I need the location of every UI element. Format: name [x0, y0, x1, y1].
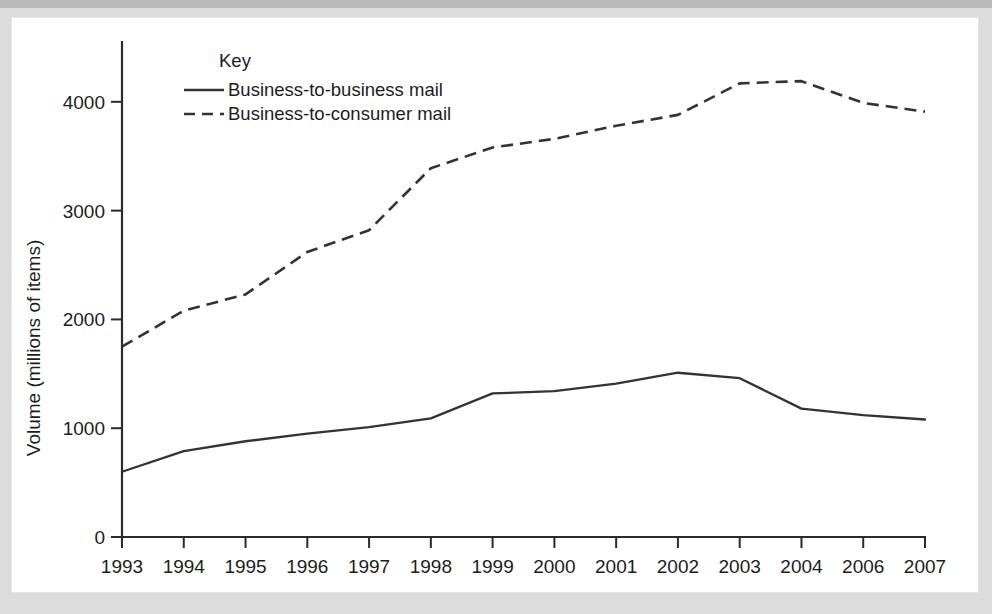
x-axis-tick-label: 2006: [842, 556, 884, 577]
y-axis-tick-label: 1000: [63, 418, 105, 439]
y-axis-tick-label: 0: [94, 527, 105, 548]
x-axis-tick-label: 1997: [348, 556, 390, 577]
x-axis-tick-label: 1998: [410, 556, 452, 577]
x-axis-tick-label: 1994: [163, 556, 206, 577]
y-axis-title: Volume (millions of items): [23, 240, 44, 456]
x-axis-tick-label: 2001: [595, 556, 637, 577]
legend-label-business-to-consumer: Business-to-consumer mail: [228, 103, 451, 124]
legend-label-business-to-business: Business-to-business mail: [228, 79, 443, 100]
x-axis-tick-label: 2004: [780, 556, 823, 577]
x-axis-tick-label: 1999: [471, 556, 513, 577]
y-axis-tick-label: 2000: [63, 309, 105, 330]
x-axis-ticks: 1993199419951996199719981999200020012002…: [101, 537, 946, 577]
x-axis-tick-label: 2002: [657, 556, 699, 577]
x-axis-tick-label: 2003: [719, 556, 761, 577]
x-axis-tick-label: 1993: [101, 556, 143, 577]
scan-edge-top: [0, 0, 992, 8]
chart-svg: 01000200030004000 1993199419951996199719…: [12, 18, 978, 592]
x-axis-tick-label: 2000: [533, 556, 575, 577]
line-chart: 01000200030004000 1993199419951996199719…: [12, 18, 978, 592]
x-axis-tick-label: 2007: [904, 556, 946, 577]
chart-series: [122, 81, 925, 472]
chart-paper: 01000200030004000 1993199419951996199719…: [12, 18, 978, 592]
chart-legend: Key Business-to-business mail Business-t…: [184, 50, 451, 124]
page-root: 01000200030004000 1993199419951996199719…: [0, 0, 992, 614]
x-axis-tick-label: 1996: [286, 556, 328, 577]
legend-title: Key: [219, 50, 252, 71]
x-axis-tick-label: 1995: [224, 556, 266, 577]
y-axis-ticks: 01000200030004000: [63, 92, 122, 548]
y-axis-tick-label: 3000: [63, 201, 105, 222]
series-line-business-to-business-mail: [122, 373, 925, 472]
y-axis-tick-label: 4000: [63, 92, 105, 113]
